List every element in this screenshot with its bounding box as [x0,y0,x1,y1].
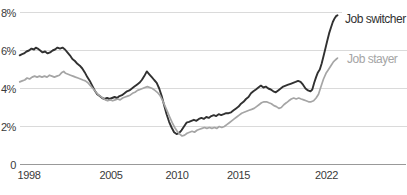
job-stayer-line [20,58,338,136]
series-label-job-stayer: Job stayer [344,51,399,66]
x-axis-label-2005: 2005 [91,169,131,181]
wage-growth-line-chart: 8% 6% 4% 2% 0 1998 2005 2010 2015 2022 J… [0,0,407,195]
series-label-job-switcher: Job switcher [342,11,407,26]
x-axis-label-2015: 2015 [219,169,259,181]
x-axis-label-1998: 1998 [9,169,49,181]
x-axis-label-2022: 2022 [307,169,347,181]
plot-area [0,0,407,195]
y-axis-label-2pct: 2% [0,121,16,133]
x-axis-label-2010: 2010 [157,169,197,181]
y-axis-label-6pct: 6% [0,45,16,57]
y-axis-label-4pct: 4% [0,83,16,95]
y-axis-label-8pct: 8% [0,7,16,19]
